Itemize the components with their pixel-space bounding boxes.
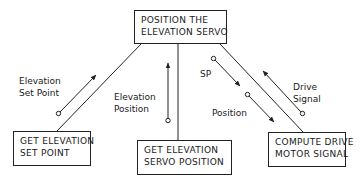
module-label-line: ELEVATION SERVO: [141, 26, 220, 38]
flow-label-line: Elevation: [19, 75, 61, 87]
flow-origin-circle: [245, 92, 249, 96]
flow-origin-circle: [300, 111, 304, 115]
flow-origin-circle: [166, 118, 170, 122]
flow-label-line: Drive: [293, 81, 321, 93]
module-label-line: SET POINT: [20, 147, 84, 159]
flow-origin-circle: [56, 111, 60, 115]
flow-origin-circle: [211, 56, 215, 60]
module-label-line: GET ELEVATION: [20, 135, 84, 147]
module-label-line: MOTOR SIGNAL: [275, 148, 339, 160]
flow-label-elevation-position: Elevation Position: [114, 91, 156, 115]
module-box-get-elevation-servo-position: GET ELEVATION SERVO POSITION: [137, 140, 232, 175]
connector-top-left: [57, 44, 141, 131]
flow-label-sp: SP: [200, 68, 211, 80]
flow-arrow-sp: [215, 60, 240, 86]
flow-label-line: Position: [212, 107, 247, 119]
flow-label-line: SP: [200, 68, 211, 80]
flow-label-elevation-set-point: Elevation Set Point: [19, 75, 61, 99]
module-label-line: GET ELEVATION: [144, 144, 225, 156]
flow-label-line: Position: [114, 103, 156, 115]
flow-label-line: Elevation: [114, 91, 156, 103]
flow-label-drive-signal: Drive Signal: [293, 81, 321, 105]
module-label-line: POSITION THE: [141, 14, 220, 26]
flow-arrow-elevation-set-point: [60, 75, 96, 112]
module-label-line: SERVO POSITION: [144, 156, 225, 168]
flow-label-position: Position: [212, 107, 247, 119]
flow-label-line: Set Point: [19, 87, 61, 99]
flow-label-line: Signal: [293, 93, 321, 105]
module-box-get-elevation-set-point: GET ELEVATION SET POINT: [13, 131, 91, 166]
module-box-compute-drive-motor-signal: COMPUTE DRIVE MOTOR SIGNAL: [268, 132, 346, 167]
module-label-line: COMPUTE DRIVE: [275, 136, 339, 148]
module-box-position-elevation-servo: POSITION THE ELEVATION SERVO: [134, 10, 227, 44]
flow-arrow-position: [249, 96, 274, 122]
